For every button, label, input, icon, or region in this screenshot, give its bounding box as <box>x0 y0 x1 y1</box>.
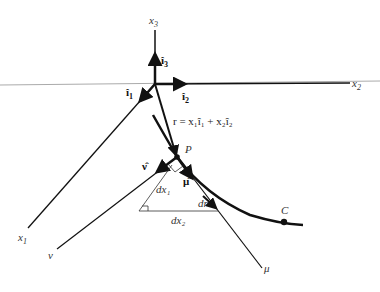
x2-label: x2 <box>351 77 361 92</box>
C-label: C <box>281 204 289 216</box>
nu-hat-vector <box>157 157 177 172</box>
x1-axis <box>28 84 155 228</box>
nu-axis-label: ν <box>48 249 53 261</box>
mu-axis-label: μ <box>263 262 270 274</box>
i2-label: î2 <box>181 90 189 105</box>
x3-label: x3 <box>148 14 158 29</box>
position-vector-label: r = x₁î₁ + x₂î₂ <box>173 115 233 127</box>
point-C <box>281 219 287 225</box>
nu-hat-label: ν̂ <box>141 160 149 172</box>
P-label: P <box>184 143 192 155</box>
dr-label: dr <box>198 197 209 209</box>
i1-vector <box>140 84 155 101</box>
right-angle-triangle <box>142 206 148 211</box>
dx2-label: dx₂ <box>171 214 185 226</box>
x1-label: x1 <box>17 231 27 246</box>
i3-label: î3 <box>160 54 168 69</box>
dx1-label: dx₁ <box>156 183 170 195</box>
curve-diagram: x3 x2 x1 î3 î2 î1 r = x₁î₁ + x₂î₂ P C ν̂… <box>0 0 380 292</box>
i1-label: î1 <box>125 86 133 101</box>
